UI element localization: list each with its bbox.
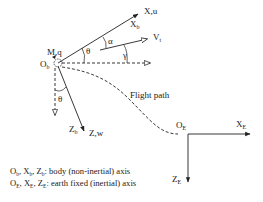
flight-path-label: Flight path (130, 91, 169, 100)
alpha-label: α (108, 37, 113, 46)
z-w-label: Z,w (89, 129, 103, 138)
angle-arcs (55, 37, 127, 91)
xb-label: Xb (130, 20, 140, 30)
theta-upper-label: θ (86, 47, 90, 56)
zb-label: Zb (69, 125, 78, 135)
ze-label: ZE (172, 175, 181, 185)
vt-label: Vt (153, 33, 161, 43)
xe-label: XE (236, 120, 246, 130)
legend-earth-axis: OE, XE, ZE: earth fixed (inertial) axis (10, 179, 136, 190)
earth-origin-label: OE (176, 121, 186, 131)
x-u-label: X,u (144, 7, 157, 16)
moment-label: M,q (47, 48, 62, 57)
legend-body-axis: Ob, Xb, Zb: body (non-inertial) axis (10, 167, 130, 178)
theta-lower-label: θ (58, 95, 62, 104)
flight-path-curve (62, 67, 178, 134)
gamma-label: γ (123, 51, 127, 60)
body-origin-label: Ob (40, 60, 50, 70)
